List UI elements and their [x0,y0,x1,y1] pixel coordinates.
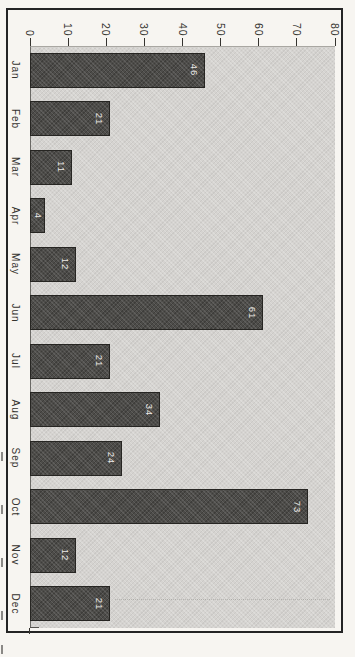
bar-jan [30,53,205,88]
bar-oct [30,489,308,524]
bar-value-may: 12 [59,258,71,271]
bar-aug [30,392,160,427]
value-axis-tick-0 [30,38,31,46]
bar-jun [30,295,263,330]
bar-value-mar: 11 [55,161,67,173]
bar-value-apr: 4 [32,213,44,219]
value-axis-tick-10 [68,38,69,46]
scan-artifact [1,505,3,514]
value-axis-tick-label-40: 40 [176,23,190,37]
value-axis-tick-label-80: 80 [328,23,342,37]
scan-artifact [1,452,3,461]
category-label-jul: Jul [8,353,22,369]
value-axis-tick-70 [296,38,297,46]
value-axis-tick-label-60: 60 [252,23,266,37]
scan-artifact [1,611,3,620]
category-label-sep: Sep [8,448,22,469]
category-label-oct: Oct [8,497,22,516]
value-axis-tick-label-50: 50 [214,23,228,37]
category-label-jan: Jan [8,61,22,80]
category-axis-end-tick [29,628,30,634]
value-axis-tick-50 [220,38,221,46]
category-label-apr: Apr [8,206,22,225]
value-axis-tick-label-10: 10 [61,23,75,37]
scan-artifact [115,599,330,600]
category-label-feb: Feb [8,109,22,129]
scan-artifact [1,558,3,567]
category-label-mar: Mar [8,157,22,177]
scan-artifact [1,645,3,654]
value-axis-tick-label-20: 20 [99,23,113,37]
value-axis-tick-40 [182,38,183,46]
bar-value-sep: 24 [105,452,117,465]
value-axis-tick-20 [106,38,107,46]
bar-value-jun: 61 [246,306,258,319]
category-label-aug: Aug [8,399,22,420]
bar-value-jan: 46 [188,64,200,77]
category-label-nov: Nov [8,545,22,566]
value-axis-tick-label-30: 30 [137,23,151,37]
bar-value-oct: 73 [291,500,303,513]
bar-value-aug: 34 [143,403,155,416]
category-label-may: May [8,253,22,275]
bar-value-feb: 21 [93,112,105,125]
value-axis-tick-30 [144,38,145,46]
bar-value-nov: 12 [59,549,71,562]
value-axis-tick-80 [335,38,336,46]
value-axis-tick-label-70: 70 [290,23,304,37]
category-label-jun: Jun [8,303,22,322]
bar-value-dec: 21 [93,597,105,610]
scanned-bar-chart-page: 01020304050607080Jan46Feb21Mar11Apr4May1… [0,0,355,657]
bar-value-jul: 21 [93,355,105,368]
value-axis-tick-label-0: 0 [23,30,37,37]
category-label-dec: Dec [8,593,22,614]
category-axis-baseline-mark [30,627,39,628]
value-axis-tick-60 [258,38,259,46]
